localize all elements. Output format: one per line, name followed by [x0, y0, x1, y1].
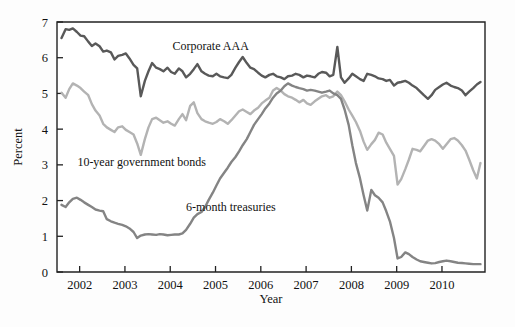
- x-tick-label: 2010: [429, 278, 454, 292]
- y-tick-label: 1: [42, 230, 48, 244]
- series-annotation: Corporate AAA: [172, 39, 249, 53]
- y-tick-label: 6: [42, 51, 48, 65]
- y-tick-label: 7: [42, 16, 48, 30]
- x-tick-label: 2006: [248, 278, 273, 292]
- y-tick-label: 3: [42, 158, 48, 172]
- x-tick-label: 2004: [158, 278, 184, 292]
- x-axis-title: Year: [259, 292, 283, 306]
- x-tick-label: 2009: [384, 278, 409, 292]
- x-tick-labels: 200220032004200520062007200820092010: [67, 278, 454, 292]
- y-tick-labels: 01234567: [42, 16, 49, 280]
- y-tick-label: 5: [42, 87, 48, 101]
- x-tick-label: 2002: [67, 278, 92, 292]
- x-tick-label: 2003: [112, 278, 137, 292]
- y-axis-title: Percent: [11, 128, 25, 166]
- y-tick-label: 2: [42, 194, 48, 208]
- plot-area: [57, 22, 485, 272]
- y-tick-label: 4: [42, 123, 49, 137]
- line-chart-svg: 01234567 2002200320042005200620072008200…: [0, 0, 515, 327]
- plot-background: [57, 22, 485, 272]
- series-annotation: 6-month treasuries: [186, 200, 276, 214]
- x-tick-label: 2005: [203, 278, 228, 292]
- x-tick-label: 2007: [294, 278, 319, 292]
- series-annotation: 10-year government bonds: [77, 155, 206, 169]
- y-tick-label: 0: [42, 266, 48, 280]
- x-tick-label: 2008: [339, 278, 364, 292]
- chart-figure: 01234567 2002200320042005200620072008200…: [0, 0, 515, 327]
